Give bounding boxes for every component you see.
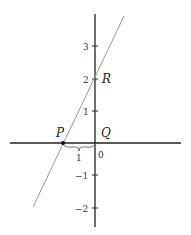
y-tick-label-neg1: −1: [75, 171, 88, 181]
brace-label: 1: [76, 153, 82, 163]
y-tick-label-1: 1: [83, 107, 89, 117]
point-P-label: P: [55, 126, 65, 140]
unit-brace: [63, 144, 95, 151]
point-P-marker: [61, 141, 65, 145]
origin-label: 0: [98, 150, 104, 160]
point-R-label: R: [101, 72, 111, 86]
y-tick-label-3: 3: [83, 42, 89, 52]
y-tick-label-neg2: −2: [75, 204, 88, 214]
coordinate-diagram: 3 2 1 −1 −2 0 1 P Q R: [0, 0, 191, 235]
y-tick-label-2: 2: [83, 75, 89, 85]
point-Q-label: Q: [101, 126, 111, 140]
